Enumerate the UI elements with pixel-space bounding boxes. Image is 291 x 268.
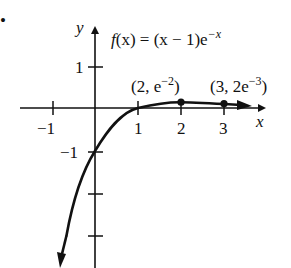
tick-label-x-3: 3 [219,119,228,138]
x-axis-label: x [255,112,264,131]
point-label-2: (2, e−2) [131,74,180,96]
point-label-3: (3, 2e−3) [210,74,267,96]
tick-label-y-1: 1 [75,58,84,77]
bullet: • [0,11,6,30]
tick-label-x-neg1: −1 [37,119,55,138]
tick-label-x-2: 2 [177,119,186,138]
graph: • y x f(x) = (x − 1)e−x −1 1 2 3 1 −1 (2… [0,0,291,268]
point-3 [220,100,227,107]
function-title: f(x) = (x − 1)e−x [111,27,222,49]
tick-label-x-1: 1 [134,119,143,138]
tick-label-y-neg1: −1 [60,143,78,162]
y-axis-label: y [74,18,84,37]
function-curve [67,102,241,235]
point-2 [177,99,184,106]
